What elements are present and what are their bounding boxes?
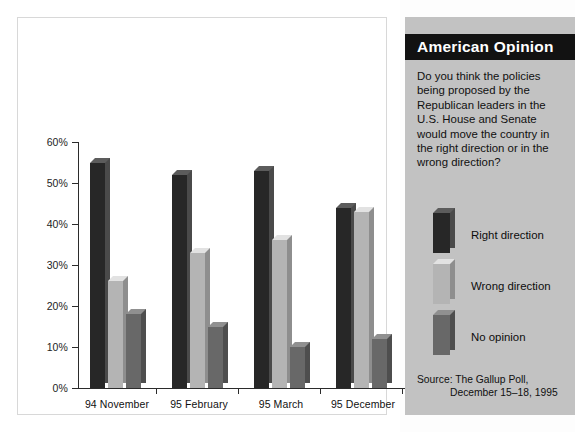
poll-chart-figure: 0%10%20%30%40%50%60%94 November95 Februa… <box>0 0 575 432</box>
x-axis-tick <box>402 388 403 394</box>
side-panel: American Opinion Do you think the polici… <box>405 17 575 415</box>
bar-94-november-right-direction <box>90 163 105 389</box>
source-label: Source: The Gallup Poll, <box>417 374 528 385</box>
bar-95-march-right-direction <box>254 171 269 388</box>
poll-question: Do you think the policies being proposed… <box>417 69 567 170</box>
x-axis-label: 94 November <box>85 398 149 410</box>
bar-face <box>254 171 269 388</box>
legend-label: No opinion <box>471 331 525 343</box>
chart-panel: 0%10%20%30%40%50%60%94 November95 Februa… <box>0 0 400 432</box>
bar-face <box>272 240 287 388</box>
y-axis-line <box>78 142 79 388</box>
panel-banner: American Opinion <box>405 34 575 60</box>
swatch-side <box>450 259 455 299</box>
source-detail: December 15–18, 1995 <box>417 386 573 399</box>
bar-95-february-wrong-direction <box>190 253 205 388</box>
y-axis-tick <box>72 142 78 143</box>
bar-face <box>190 253 205 388</box>
source-note: Source: The Gallup Poll, December 15–18,… <box>417 373 573 399</box>
plot-area: 0%10%20%30%40%50%60%94 November95 Februa… <box>78 142 406 388</box>
bar-side <box>387 334 392 383</box>
bar-95-december-no-opinion <box>372 339 387 388</box>
x-axis-tick <box>238 388 239 394</box>
bar-face <box>172 175 187 388</box>
panel-title: American Opinion <box>417 34 554 60</box>
legend-row: No opinion <box>405 311 575 362</box>
legend-swatch-right-direction <box>433 213 450 253</box>
y-axis-tick <box>72 306 78 307</box>
y-axis-label: 30% <box>47 259 68 271</box>
y-axis-tick <box>72 347 78 348</box>
x-axis-label: 95 March <box>259 398 304 410</box>
bar-face <box>354 212 369 388</box>
swatch-side <box>450 208 455 248</box>
bar-94-november-no-opinion <box>126 314 141 388</box>
legend-label: Right direction <box>471 229 544 241</box>
y-axis-tick <box>72 224 78 225</box>
y-axis-label: 40% <box>47 218 68 230</box>
x-axis-line <box>78 388 406 389</box>
legend-row: Right direction <box>405 209 575 260</box>
bar-side <box>305 342 310 383</box>
y-axis-label: 0% <box>53 382 68 394</box>
legend-swatch-no-opinion <box>433 315 450 355</box>
swatch-face <box>433 264 450 304</box>
bar-95-march-no-opinion <box>290 347 305 388</box>
x-axis-tick <box>320 388 321 394</box>
y-axis-tick <box>72 388 78 389</box>
bar-95-december-wrong-direction <box>354 212 369 388</box>
bar-face <box>290 347 305 388</box>
y-axis-tick <box>72 183 78 184</box>
x-axis-label: 95 December <box>331 398 395 410</box>
swatch-face <box>433 213 450 253</box>
bar-95-december-right-direction <box>336 208 351 388</box>
y-axis-label: 20% <box>47 300 68 312</box>
bar-95-february-no-opinion <box>208 327 223 389</box>
swatch-face <box>433 315 450 355</box>
y-axis-tick <box>72 265 78 266</box>
bar-face <box>372 339 387 388</box>
legend-row: Wrong direction <box>405 260 575 311</box>
bar-face <box>108 281 123 388</box>
chart-legend: Right directionWrong directionNo opinion <box>405 209 575 362</box>
bar-side <box>223 322 228 384</box>
swatch-side <box>450 310 455 350</box>
bar-face <box>90 163 105 389</box>
bar-face <box>208 327 223 389</box>
bar-95-february-right-direction <box>172 175 187 388</box>
y-axis-label: 60% <box>47 136 68 148</box>
legend-swatch-wrong-direction <box>433 264 450 304</box>
bar-side <box>141 309 146 383</box>
y-axis-label: 10% <box>47 341 68 353</box>
chart-frame: 0%10%20%30%40%50%60%94 November95 Februa… <box>17 17 387 415</box>
y-axis-label: 50% <box>47 177 68 189</box>
bar-95-march-wrong-direction <box>272 240 287 388</box>
bar-face <box>336 208 351 388</box>
x-axis-tick <box>156 388 157 394</box>
bar-94-november-wrong-direction <box>108 281 123 388</box>
legend-label: Wrong direction <box>471 280 551 292</box>
bar-face <box>126 314 141 388</box>
x-axis-label: 95 February <box>170 398 228 410</box>
